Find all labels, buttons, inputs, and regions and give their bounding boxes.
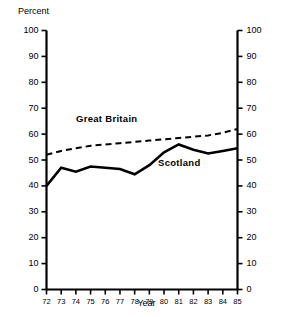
series-line-great-britain xyxy=(47,129,238,155)
y-tick-label-left: 50 xyxy=(15,156,39,165)
y-tick-label-left: 10 xyxy=(15,259,39,268)
y-tick-label-left: 20 xyxy=(15,233,39,242)
y-tick-label-left: 90 xyxy=(15,52,39,61)
y-tick-label-right: 70 xyxy=(247,104,271,113)
y-tick-label-right: 60 xyxy=(247,130,271,139)
y-tick-label-right: 20 xyxy=(247,233,271,242)
y-tick-label-left: 70 xyxy=(15,104,39,113)
data-series xyxy=(47,129,238,186)
y-tick-label-right: 30 xyxy=(247,207,271,216)
axes xyxy=(42,31,243,295)
y-tick-label-left: 80 xyxy=(15,78,39,87)
y-tick-label-left: 0 xyxy=(15,285,39,294)
y-tick-label-left: 30 xyxy=(15,207,39,216)
y-tick-label-left: 60 xyxy=(15,130,39,139)
y-tick-label-right: 90 xyxy=(247,52,271,61)
y-tick-label-left: 100 xyxy=(15,26,39,35)
y-tick-label-right: 0 xyxy=(247,285,271,294)
y-tick-label-right: 50 xyxy=(247,156,271,165)
y-tick-label-right: 80 xyxy=(247,78,271,87)
series-line-scotland xyxy=(47,144,238,185)
x-tick-label: 85 xyxy=(229,298,247,306)
y-tick-label-right: 100 xyxy=(247,26,271,35)
y-tick-label-left: 40 xyxy=(15,181,39,190)
y-tick-label-right: 40 xyxy=(247,181,271,190)
chart-container: Percent Year Great Britain Scotland 1009… xyxy=(0,0,293,317)
y-tick-label-right: 10 xyxy=(247,259,271,268)
